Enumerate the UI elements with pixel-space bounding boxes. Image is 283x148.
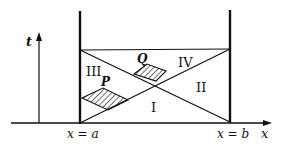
- region-q-label: Q: [137, 52, 148, 66]
- x-axis: [11, 120, 272, 126]
- t-axis-label: t: [26, 34, 32, 49]
- region-iv-label: IV: [178, 55, 193, 70]
- region-p-hatched: [82, 88, 128, 110]
- region-p-label: P: [100, 75, 111, 89]
- t-axis-arrow-icon: [36, 32, 42, 41]
- t-axis: [36, 32, 42, 123]
- characteristics-diagram: III IV II I P Q t x x = a x = b: [0, 0, 283, 148]
- region-iii-label: III: [86, 64, 101, 79]
- region-i-label: I: [151, 100, 156, 115]
- x-axis-label: x: [261, 126, 269, 141]
- left-boundary-label: x = a: [67, 127, 99, 141]
- region-ii-label: II: [196, 80, 206, 95]
- right-boundary-label: x = b: [217, 127, 249, 141]
- top-line: [80, 49, 230, 50]
